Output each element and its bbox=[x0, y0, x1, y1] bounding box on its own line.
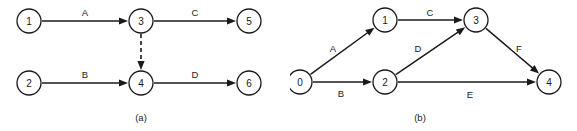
graph-node-3[interactable]: 3 bbox=[464, 8, 488, 32]
edge-label: B bbox=[338, 88, 344, 99]
edge-line bbox=[311, 31, 370, 74]
node-label: 2 bbox=[26, 78, 32, 89]
node-label: 3 bbox=[473, 15, 479, 26]
edge-label: E bbox=[467, 89, 473, 100]
arrow-head-icon bbox=[456, 27, 465, 35]
graph-node-1[interactable]: 1 bbox=[17, 9, 41, 33]
edge-label: C bbox=[427, 7, 434, 18]
graph-node-2[interactable]: 2 bbox=[17, 71, 41, 95]
arrow-head-icon bbox=[227, 79, 236, 86]
edge-label: A bbox=[82, 7, 89, 18]
node-label: 0 bbox=[297, 77, 303, 88]
graph-node-1[interactable]: 1 bbox=[373, 8, 397, 32]
edge-label: A bbox=[330, 43, 337, 54]
edge-0-to-1 bbox=[311, 31, 370, 74]
node-label: 3 bbox=[138, 16, 144, 27]
arrow-head-icon bbox=[137, 61, 144, 70]
edge-label: B bbox=[82, 69, 88, 80]
edge-line bbox=[486, 28, 534, 69]
panel-caption: (a) bbox=[135, 112, 147, 123]
graph-node-2[interactable]: 2 bbox=[373, 70, 397, 94]
edge-3-to-4 bbox=[486, 28, 534, 69]
arrow-head-icon bbox=[365, 28, 374, 36]
edge-label: C bbox=[192, 7, 199, 18]
edge-label: D bbox=[415, 43, 422, 54]
arrow-head-icon bbox=[227, 17, 236, 24]
edge-label: F bbox=[516, 43, 522, 54]
node-label: 2 bbox=[382, 77, 388, 88]
arrow-head-icon bbox=[527, 78, 536, 85]
edge-label: D bbox=[192, 69, 199, 80]
graph-node-4[interactable]: 4 bbox=[129, 71, 153, 95]
arrow-head-icon bbox=[119, 17, 128, 24]
figure-root: ACBD135246(a) ABCDEF01234(b) bbox=[0, 0, 577, 131]
graph-node-3[interactable]: 3 bbox=[129, 9, 153, 33]
node-label: 1 bbox=[382, 15, 388, 26]
diagram-panel-b: ABCDEF01234(b) bbox=[290, 0, 577, 131]
node-label: 1 bbox=[26, 16, 32, 27]
graph-node-6[interactable]: 6 bbox=[237, 71, 261, 95]
arrow-head-icon bbox=[119, 79, 128, 86]
node-label: 4 bbox=[138, 78, 144, 89]
edge-2-to-3 bbox=[396, 31, 460, 75]
edge-line bbox=[396, 31, 460, 75]
graph-node-0[interactable]: 0 bbox=[290, 70, 312, 94]
arrow-head-icon bbox=[454, 16, 463, 23]
node-label: 5 bbox=[246, 16, 252, 27]
panel-caption: (b) bbox=[414, 112, 426, 123]
diagram-panel-a: ACBD135246(a) bbox=[0, 0, 290, 131]
graph-node-5[interactable]: 5 bbox=[237, 9, 261, 33]
node-label: 4 bbox=[546, 77, 552, 88]
graph-node-4[interactable]: 4 bbox=[537, 70, 561, 94]
arrow-head-icon bbox=[363, 78, 372, 85]
node-label: 6 bbox=[246, 78, 252, 89]
